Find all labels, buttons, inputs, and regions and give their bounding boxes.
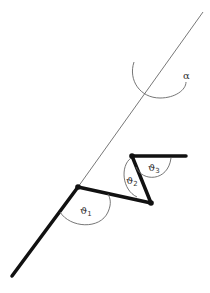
alpha-angle-arc [132, 62, 186, 98]
theta3-label: ϑ3 [148, 162, 160, 175]
theta1-label: ϑ1 [80, 205, 92, 218]
kinematic-diagram: α ϑ1 ϑ2 ϑ3 [0, 0, 210, 293]
theta2-label: ϑ2 [126, 175, 138, 188]
link-1 [78, 187, 151, 203]
base-link [12, 187, 78, 276]
joint-2 [148, 200, 154, 206]
joint-1 [75, 184, 81, 190]
reference-axis-line [78, 12, 203, 187]
alpha-label: α [183, 70, 190, 81]
joint-3 [129, 153, 135, 159]
